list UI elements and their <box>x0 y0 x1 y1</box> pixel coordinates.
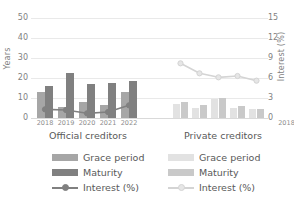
legend-private-creditors: Grace periodMaturityInterest (%) <box>168 150 260 195</box>
legend-item-private-interest[interactable]: Interest (%) <box>168 180 260 195</box>
legend-label: Grace period <box>83 152 144 163</box>
interest-marker-official-2022 <box>126 103 131 108</box>
interest-marker-private-2018 <box>178 61 183 66</box>
interest-line-official <box>31 8 144 118</box>
legend-official-creditors: Grace periodMaturityInterest (%) <box>52 150 144 195</box>
caption-official-creditors: Official creditors <box>23 130 153 141</box>
interest-line-private <box>168 8 268 118</box>
x-tick-official-2018: 2018 <box>34 119 56 128</box>
interest-marker-private-2020 <box>216 75 221 80</box>
interest-marker-private-2019 <box>197 71 202 76</box>
interest-marker-official-2018 <box>42 107 47 112</box>
x-axis-ticks-official: 20182019202020212022 <box>31 119 144 129</box>
legend-item-private-grace-period[interactable]: Grace period <box>168 150 260 165</box>
panel-official-creditors <box>31 8 144 118</box>
legend-label: Maturity <box>199 167 239 178</box>
y-tick-right-12: 12 <box>268 34 288 42</box>
x-tick-official-2022: 2022 <box>118 119 140 128</box>
interest-marker-private-2022 <box>254 78 259 83</box>
y-tick-right-3: 3 <box>268 94 288 102</box>
legend-item-official-maturity[interactable]: Maturity <box>52 165 144 180</box>
legend-label: Interest (%) <box>83 182 139 193</box>
x-tick-official-2021: 2021 <box>97 119 119 128</box>
chart-container: Years 50403020100 Interest (%) 15129630 … <box>0 0 294 198</box>
panel-private-creditors <box>168 8 268 118</box>
x-tick-private-2018: 2018 <box>276 119 295 128</box>
legend-swatch-icon <box>168 169 194 176</box>
legend-item-official-interest[interactable]: Interest (%) <box>52 180 144 195</box>
y-tick-left-50: 50 <box>8 14 28 22</box>
y-tick-right-9: 9 <box>268 54 288 62</box>
y-tick-left-10: 10 <box>8 94 28 102</box>
legend-swatch-icon <box>168 154 194 161</box>
legend-label: Interest (%) <box>199 182 255 193</box>
y-tick-right-6: 6 <box>268 74 288 82</box>
y-tick-left-30: 30 <box>8 54 28 62</box>
legend-label: Maturity <box>83 167 123 178</box>
y-tick-left-40: 40 <box>8 34 28 42</box>
legend-item-official-grace-period[interactable]: Grace period <box>52 150 144 165</box>
y-tick-right-15: 15 <box>268 14 288 22</box>
legend-item-private-maturity[interactable]: Maturity <box>168 165 260 180</box>
x-tick-official-2019: 2019 <box>55 119 77 128</box>
legend-line-marker-icon <box>52 183 78 192</box>
interest-marker-private-2021 <box>235 73 240 78</box>
legend-label: Grace period <box>199 152 260 163</box>
y-tick-left-0: 0 <box>8 114 28 122</box>
interest-marker-official-2021 <box>105 109 110 114</box>
plot-area <box>31 8 268 118</box>
y-axis-left-ticks: 50403020100 <box>8 0 28 198</box>
interest-marker-official-2019 <box>63 107 68 112</box>
legend-swatch-icon <box>52 154 78 161</box>
x-axis-ticks-private: 20182019202020212022 <box>168 119 268 129</box>
y-tick-left-20: 20 <box>8 74 28 82</box>
y-axis-right-ticks: 15129630 <box>268 0 288 198</box>
legend-line-marker-icon <box>168 183 194 192</box>
interest-marker-official-2020 <box>84 111 89 116</box>
x-tick-official-2020: 2020 <box>76 119 98 128</box>
legend-swatch-icon <box>52 169 78 176</box>
caption-private-creditors: Private creditors <box>158 130 288 141</box>
